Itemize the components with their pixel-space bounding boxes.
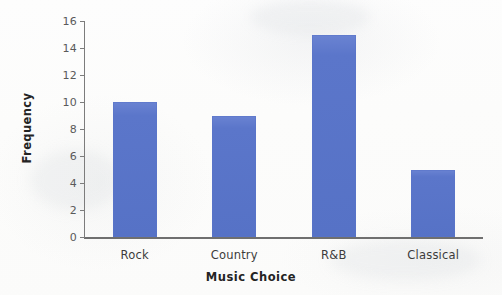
y-axis-tick (80, 75, 85, 76)
y-axis-tick (80, 129, 85, 130)
y-axis-tick (80, 102, 85, 103)
x-axis-tick-label: Classical (407, 248, 459, 262)
y-axis-tick-label: 8 (70, 123, 77, 136)
y-axis-tick-label: 10 (63, 96, 77, 109)
y-axis-tick-label: 4 (70, 177, 77, 190)
x-axis-line (84, 237, 483, 239)
x-axis-tick-label: R&B (321, 248, 346, 262)
plot-area: 0246810121416 (85, 21, 483, 237)
bar-chart: Frequency 0246810121416 RockCountryR&BCl… (0, 0, 502, 295)
y-axis-tick (80, 156, 85, 157)
bar-country (212, 116, 256, 238)
y-axis-tick-label: 16 (63, 15, 77, 28)
y-axis-tick (80, 183, 85, 184)
bar-r-b (312, 35, 356, 238)
x-axis-title: Music Choice (0, 270, 502, 284)
y-axis-tick (80, 48, 85, 49)
bar-classical (411, 170, 455, 238)
x-axis-tick-label: Country (211, 248, 258, 262)
y-axis-title: Frequency (20, 93, 34, 164)
y-axis-tick-label: 2 (70, 204, 77, 217)
y-axis-tick (80, 210, 85, 211)
bar-rock (113, 102, 157, 237)
y-axis-tick-label: 14 (63, 42, 77, 55)
y-axis-tick-label: 6 (70, 150, 77, 163)
y-axis-tick-label: 12 (63, 69, 77, 82)
y-axis-tick (80, 237, 85, 238)
y-axis-tick-label: 0 (70, 231, 77, 244)
y-axis-tick (80, 21, 85, 22)
x-axis-tick-label: Rock (121, 248, 149, 262)
